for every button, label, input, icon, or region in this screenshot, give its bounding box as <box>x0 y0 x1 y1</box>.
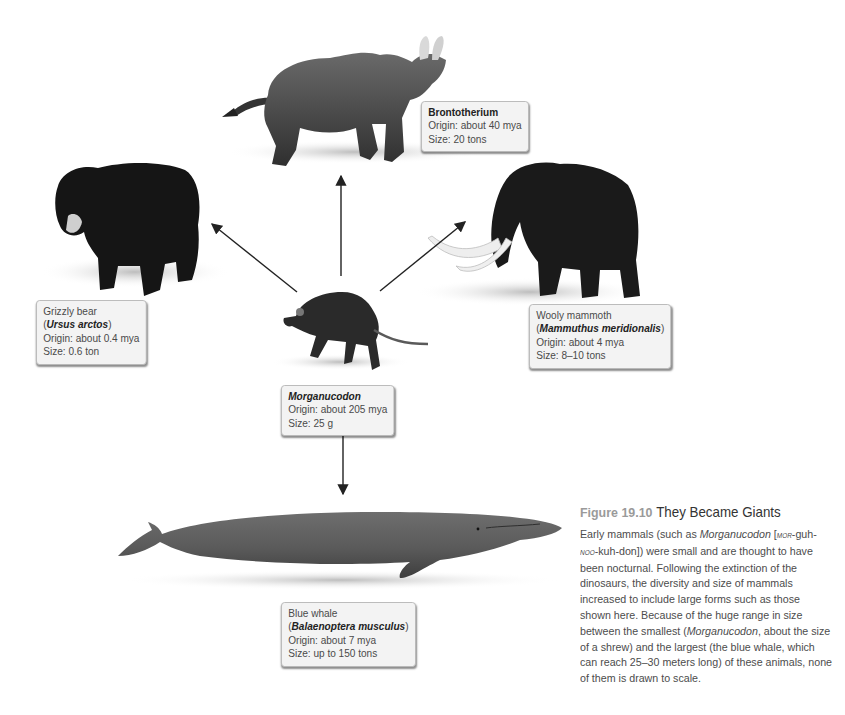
grizzly-scientific-name: Ursus arctos <box>47 318 109 330</box>
grizzly-bear-illustration <box>40 163 230 296</box>
whale-scientific-name: Balaenoptera musculus <box>292 620 406 632</box>
blue-whale-label: Blue whale (Balaenoptera musculus) Origi… <box>281 602 416 667</box>
morganucodon-origin: Origin: about 205 mya <box>288 403 387 416</box>
mammoth-scientific-name: Mammuthus meridionalis <box>540 322 661 334</box>
blue-whale-illustration <box>118 512 562 590</box>
whale-common-name: Blue whale <box>288 607 408 620</box>
brontotherium-label: Brontotherium Origin: about 40 mya Size:… <box>421 101 529 152</box>
grizzly-origin: Origin: about 0.4 mya <box>43 332 139 345</box>
grizzly-common-name: Grizzly bear <box>43 305 139 318</box>
caption-taxon: Morganucodon <box>687 624 758 637</box>
paren-close: ) <box>108 318 111 330</box>
caption-text: Early mammals (such as <box>580 527 700 540</box>
pronunciation-stress: mor <box>777 529 792 540</box>
caption-taxon: Morganucodon <box>700 527 771 540</box>
morganucodon-illustration <box>270 292 428 370</box>
figure-title: They Became Giants <box>656 504 781 520</box>
caption-body: Early mammals (such as Morganucodon [mor… <box>580 526 833 686</box>
figure-caption: Figure 19.10They Became Giants Early mam… <box>580 503 833 686</box>
morganucodon-size: Size: 25 g <box>288 417 387 430</box>
mammoth-size: Size: 8–10 tons <box>536 349 664 362</box>
grizzly-size: Size: 0.6 ton <box>43 345 139 358</box>
brontotherium-size: Size: 20 tons <box>428 133 521 146</box>
mammoth-scientific-line: (Mammuthus meridionalis) <box>536 322 664 335</box>
whale-scientific-line: (Balaenoptera musculus) <box>288 620 408 633</box>
grizzly-bear-label: Grizzly bear (Ursus arctos) Origin: abou… <box>36 300 147 365</box>
whale-size: Size: up to 150 tons <box>288 647 408 660</box>
pronunciation-stress: noo <box>580 546 595 557</box>
caption-text: -guh- <box>792 527 817 540</box>
paren-close: ) <box>405 620 408 632</box>
brontotherium-origin: Origin: about 40 mya <box>428 119 521 132</box>
morganucodon-label: Morganucodon Origin: about 205 mya Size:… <box>281 385 394 436</box>
arrow-to-grizzly-bear <box>212 224 297 292</box>
caption-heading: Figure 19.10They Became Giants <box>580 503 833 521</box>
arrow-to-wooly-mammoth <box>380 222 465 291</box>
brontotherium-name: Brontotherium <box>428 106 521 119</box>
mammoth-origin: Origin: about 4 mya <box>536 336 664 349</box>
figure-number: Figure 19.10 <box>580 505 652 520</box>
mammoth-common-name: Wooly mammoth <box>536 309 664 322</box>
whale-origin: Origin: about 7 mya <box>288 634 408 647</box>
grizzly-scientific-line: (Ursus arctos) <box>43 318 139 331</box>
wooly-mammoth-label: Wooly mammoth (Mammuthus meridionalis) O… <box>529 304 672 369</box>
morganucodon-name: Morganucodon <box>288 390 387 403</box>
paren-close: ) <box>661 322 664 334</box>
